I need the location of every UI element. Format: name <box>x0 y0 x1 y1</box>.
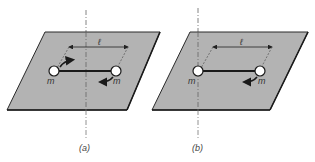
mass-right-b <box>255 66 265 76</box>
mass-right-a <box>111 66 121 76</box>
caption-b: (b) <box>192 143 203 153</box>
mass-label-left-a: m <box>47 76 55 86</box>
caption-a: (a) <box>79 143 90 153</box>
panel-b: ℓ m m (b) <box>152 8 308 153</box>
mass-left-b <box>193 66 203 76</box>
mass-label-right-b: m <box>258 76 266 86</box>
panel-a: ℓ m m (a) <box>7 10 160 153</box>
length-label-b: ℓ <box>239 37 243 47</box>
rotation-diagram: ℓ m m (a) ℓ m m (b) <box>0 0 315 162</box>
length-label-a: ℓ <box>97 37 101 47</box>
mass-label-left-b: m <box>188 76 196 86</box>
mass-label-right-a: m <box>113 76 121 86</box>
mass-left-a <box>49 66 59 76</box>
